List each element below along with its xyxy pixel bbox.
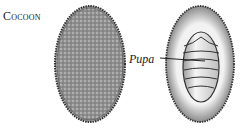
pupa [183, 32, 219, 102]
cocoon-illustration [0, 0, 241, 129]
closed-cocoon [55, 6, 125, 122]
cocoon-cross-section [160, 6, 234, 122]
